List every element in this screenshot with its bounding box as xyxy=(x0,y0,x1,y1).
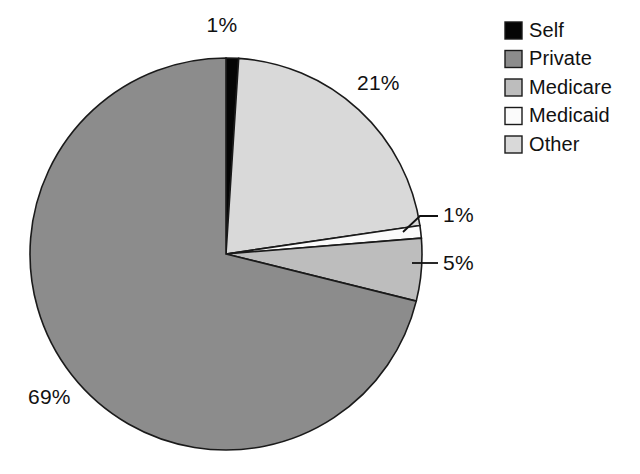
slice-value-label-self: 1% xyxy=(207,13,238,36)
legend-swatch-other xyxy=(505,136,522,153)
legend-label-medicare: Medicare xyxy=(529,76,612,98)
legend-label-other: Other xyxy=(529,133,580,155)
slice-value-label-other: 21% xyxy=(357,71,400,94)
pie-chart-figure: 1%21%1%5%69% SelfPrivateMedicareMedicaid… xyxy=(0,0,640,474)
slice-value-label-medicare: 5% xyxy=(443,251,474,274)
slice-value-label-private: 69% xyxy=(28,385,71,408)
pie-slices-group xyxy=(30,58,422,450)
legend-swatch-self xyxy=(505,22,522,39)
legend-swatch-private xyxy=(505,51,522,68)
legend-label-private: Private xyxy=(529,47,592,69)
legend-label-self: Self xyxy=(529,19,564,41)
slice-value-label-medicaid: 1% xyxy=(443,203,474,226)
legend-swatch-medicare xyxy=(505,79,522,96)
chart-canvas: 1%21%1%5%69% SelfPrivateMedicareMedicaid… xyxy=(0,0,640,474)
legend-swatch-medicaid xyxy=(505,108,522,125)
legend-label-medicaid: Medicaid xyxy=(529,104,610,126)
